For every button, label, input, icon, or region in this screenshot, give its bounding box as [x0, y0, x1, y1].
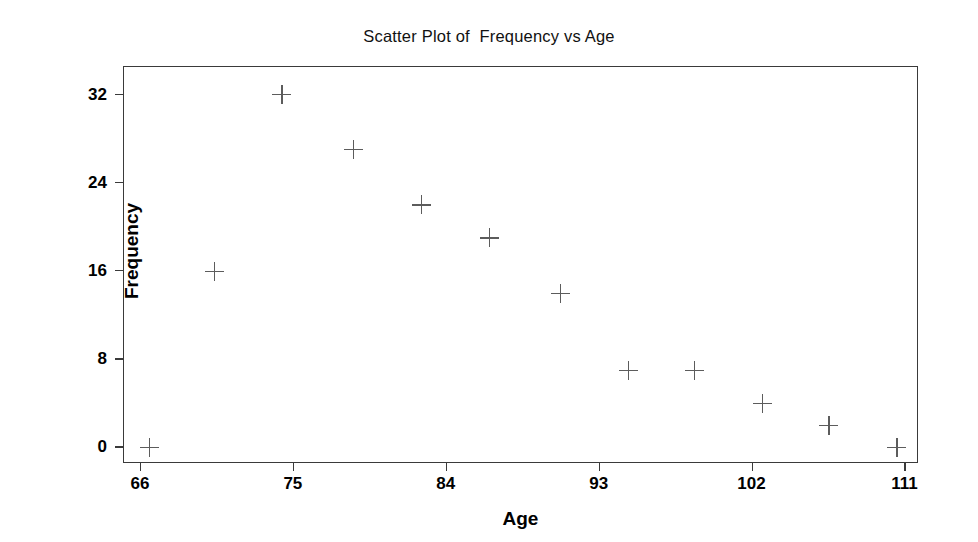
x-axis-tick-label: 84: [406, 475, 486, 492]
y-axis-tick: [115, 182, 123, 183]
x-axis-tick-label: 102: [712, 475, 792, 492]
x-axis-tick: [446, 463, 447, 471]
data-point-marker: [819, 416, 838, 435]
y-axis-tick: [115, 358, 123, 359]
data-point-marker: [480, 228, 499, 247]
x-axis-tick-label: 93: [559, 475, 639, 492]
chart-title: Scatter Plot of Frequency vs Age: [0, 27, 978, 46]
data-points-layer: [124, 67, 917, 462]
y-axis-tick-label: 32: [47, 86, 107, 103]
y-axis-tick: [115, 94, 123, 95]
y-axis-tick-label: 24: [47, 174, 107, 191]
data-point-marker: [551, 284, 570, 303]
x-axis: 66758493102111: [123, 463, 918, 503]
x-axis-tick: [904, 463, 905, 471]
plot-area: [123, 66, 918, 463]
x-axis-tick-label: 75: [253, 475, 333, 492]
x-axis-tick: [752, 463, 753, 471]
x-axis-tick: [140, 463, 141, 471]
y-axis-tick-label: 0: [47, 438, 107, 455]
y-axis-label: Frequency: [121, 203, 143, 299]
data-point-marker: [412, 195, 431, 214]
data-point-marker: [685, 361, 704, 380]
x-axis-tick: [599, 463, 600, 471]
x-axis-tick-label: 66: [100, 475, 180, 492]
x-axis-tick-label: 111: [864, 475, 944, 492]
x-axis-tick: [293, 463, 294, 471]
data-point-marker: [205, 262, 224, 281]
data-point-marker: [344, 140, 363, 159]
scatter-plot-figure: Scatter Plot of Frequency vs Age Frequen…: [0, 0, 978, 542]
y-axis-tick: [115, 446, 123, 447]
data-point-marker: [753, 394, 772, 413]
data-point-marker: [887, 438, 906, 457]
x-axis-label: Age: [123, 508, 918, 530]
y-axis-tick-label: 8: [47, 350, 107, 367]
data-point-marker: [619, 361, 638, 380]
data-point-marker: [272, 85, 291, 104]
data-point-marker: [140, 438, 159, 457]
y-axis-tick: [115, 270, 123, 271]
y-axis-tick-label: 16: [47, 262, 107, 279]
